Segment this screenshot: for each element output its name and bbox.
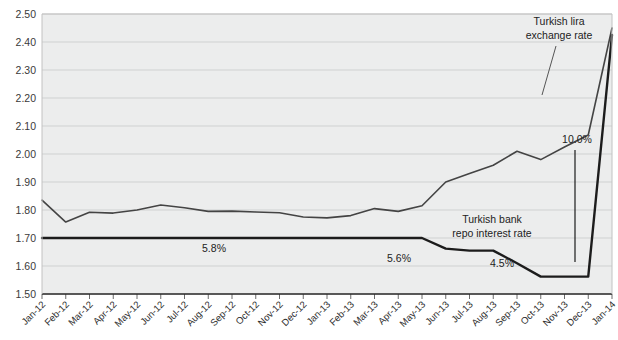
datalabel-5-6: 5.6%: [387, 252, 411, 264]
datalabel-4-5: 4.5%: [490, 257, 514, 269]
repo-label-2: repo interest rate: [452, 227, 532, 239]
y-tick-label: 1.70: [16, 232, 37, 244]
y-tick-label: 2.20: [16, 92, 37, 104]
turkish-lira-repo-rate-chart: 1.501.601.701.801.902.002.102.202.302.40…: [0, 0, 618, 340]
y-tick-label: 1.80: [16, 204, 37, 216]
y-tick-label: 2.30: [16, 64, 37, 76]
y-tick-label: 2.40: [16, 36, 37, 48]
lira-label-2: exchange rate: [526, 29, 593, 41]
y-tick-label: 1.60: [16, 260, 37, 272]
datalabel-10-0: 10.0%: [562, 133, 592, 145]
repo-label: Turkish bank: [462, 213, 522, 225]
lira-label: Turkish lira: [534, 15, 585, 27]
datalabel-5-8: 5.8%: [202, 242, 226, 254]
y-tick-label: 2.00: [16, 148, 37, 160]
y-tick-label: 2.50: [16, 8, 37, 20]
y-tick-label: 1.50: [16, 288, 37, 300]
y-tick-label: 1.90: [16, 176, 37, 188]
y-tick-label: 2.10: [16, 120, 37, 132]
